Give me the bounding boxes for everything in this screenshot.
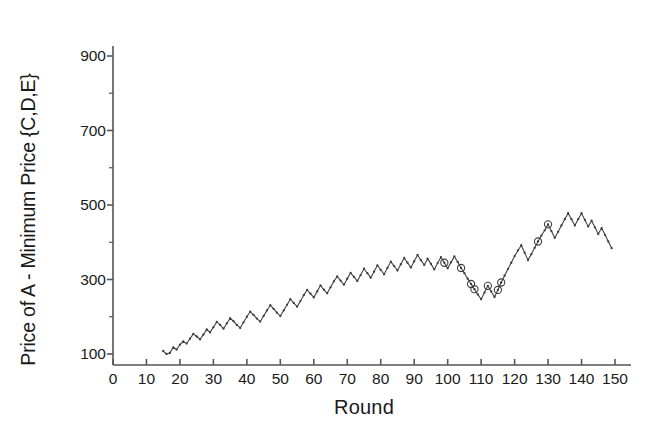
data-point-dot	[386, 267, 388, 269]
data-point-dot	[326, 292, 328, 294]
data-point-dot	[594, 226, 596, 228]
data-point-dot	[480, 298, 482, 300]
data-point-dot	[259, 320, 261, 322]
data-point-dot	[493, 296, 495, 298]
data-point-dot	[534, 247, 536, 249]
data-point-dot	[289, 298, 291, 300]
data-point-dot	[580, 212, 582, 214]
data-point-dot	[457, 261, 459, 263]
data-point-dot	[276, 312, 278, 314]
data-point-dot	[467, 278, 469, 280]
data-point-dot	[222, 328, 224, 330]
data-point-dot	[537, 240, 539, 242]
data-point-dot	[503, 275, 505, 277]
x-tick-label: 40	[238, 370, 255, 388]
data-point-dot	[192, 333, 194, 335]
data-point-dot	[607, 240, 609, 242]
data-point-dot	[567, 212, 569, 214]
data-point-dot	[577, 218, 579, 220]
data-point-dot	[272, 308, 274, 310]
data-point-dot	[440, 256, 442, 258]
data-point-dot	[517, 249, 519, 251]
data-point-dot	[363, 268, 365, 270]
data-point-markers	[162, 212, 613, 355]
data-point-dot	[376, 264, 378, 266]
data-point-dot	[426, 257, 428, 259]
data-point-dot	[162, 350, 164, 352]
data-point-dot	[400, 263, 402, 265]
data-point-dot	[179, 344, 181, 346]
data-point-dot	[242, 321, 244, 323]
data-point-dot	[373, 271, 375, 273]
data-point-dot	[447, 267, 449, 269]
data-point-dot	[266, 309, 268, 311]
data-point-dot	[393, 265, 395, 267]
data-point-dot	[527, 259, 529, 261]
data-point-dot	[423, 264, 425, 266]
data-point-dot	[597, 233, 599, 235]
data-point-dot	[430, 263, 432, 265]
data-point-dot	[239, 327, 241, 329]
series-polyline	[163, 213, 611, 354]
data-point-dot	[510, 262, 512, 264]
data-point-dot	[483, 291, 485, 293]
data-point-dot	[450, 261, 452, 263]
data-point-dot	[366, 272, 368, 274]
x-tick-label: 140	[569, 370, 595, 388]
data-point-dot	[256, 317, 258, 319]
data-point-dot	[360, 274, 362, 276]
data-point-dot	[216, 321, 218, 323]
data-point-dot	[269, 304, 271, 306]
data-point-dot	[530, 253, 532, 255]
x-tick-label: 20	[171, 370, 188, 388]
data-point-dot	[396, 269, 398, 271]
data-point-dot	[189, 338, 191, 340]
data-point-dot	[309, 293, 311, 295]
data-point-dot	[319, 284, 321, 286]
data-point-dot	[570, 218, 572, 220]
data-point-dot	[574, 224, 576, 226]
x-tick-label: 30	[205, 370, 222, 388]
data-point-dot	[339, 279, 341, 281]
data-point-dot	[473, 288, 475, 290]
data-point-dot	[564, 218, 566, 220]
y-tick-label: 100	[58, 345, 106, 363]
x-tick-label: 0	[109, 370, 118, 388]
x-tick-label: 50	[272, 370, 289, 388]
data-point-dot	[544, 229, 546, 231]
data-point-dot	[303, 294, 305, 296]
data-point-dot	[209, 331, 211, 333]
data-point-dot	[584, 219, 586, 221]
y-tick-label: 500	[58, 196, 106, 214]
data-point-dot	[185, 342, 187, 344]
x-tick-label: 110	[469, 370, 494, 388]
chart-figure: Price of A - Minimum Price {C,D,E} Round…	[0, 0, 645, 439]
data-point-dot	[416, 254, 418, 256]
data-point-dot	[165, 353, 167, 355]
data-point-dot	[296, 306, 298, 308]
data-point-dot	[226, 322, 228, 324]
data-point-dot	[390, 260, 392, 262]
data-point-dot	[611, 247, 613, 249]
data-point-dot	[497, 289, 499, 291]
data-point-dot	[453, 255, 455, 257]
axes	[113, 46, 631, 365]
data-point-dot	[547, 223, 549, 225]
data-point-dot	[286, 304, 288, 306]
highlighted-point-circles	[441, 221, 552, 294]
data-point-dot	[370, 276, 372, 278]
data-point-dot	[433, 268, 435, 270]
data-series-line	[163, 213, 611, 354]
data-point-dot	[523, 252, 525, 254]
data-point-dot	[175, 348, 177, 350]
data-point-dot	[232, 320, 234, 322]
x-tick-label: 80	[372, 370, 389, 388]
data-point-dot	[500, 281, 502, 283]
data-point-dot	[333, 280, 335, 282]
data-point-dot	[202, 333, 204, 335]
data-point-dot	[490, 290, 492, 292]
data-point-dot	[443, 262, 445, 264]
data-point-dot	[470, 283, 472, 285]
data-point-dot	[323, 288, 325, 290]
data-point-dot	[436, 262, 438, 264]
